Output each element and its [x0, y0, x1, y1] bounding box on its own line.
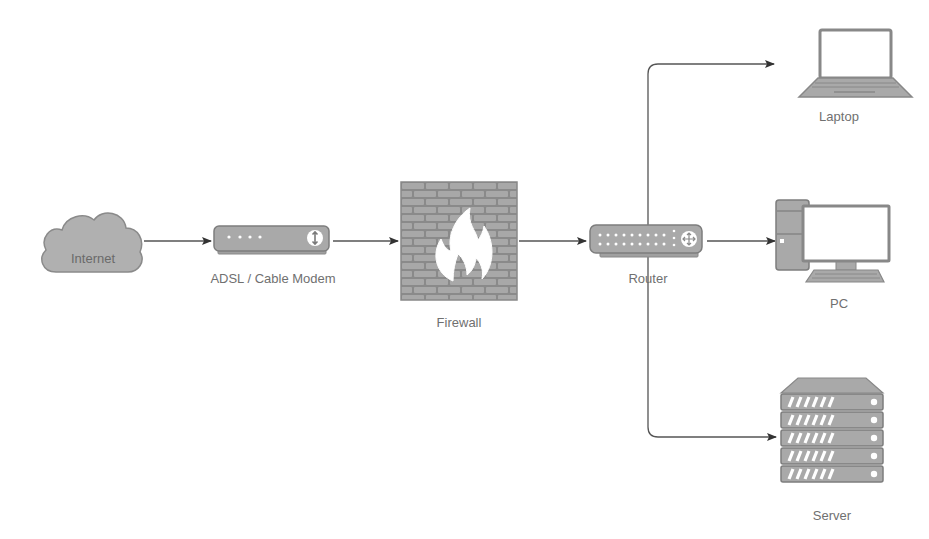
- label-pc: PC: [830, 296, 848, 311]
- label-server: Server: [813, 508, 851, 523]
- server-icon[interactable]: [781, 378, 883, 482]
- laptop-icon[interactable]: [799, 30, 912, 97]
- network-diagram-canvas: [0, 0, 929, 539]
- modem-icon[interactable]: [214, 226, 329, 254]
- label-firewall: Firewall: [437, 315, 482, 330]
- firewall-icon[interactable]: [401, 182, 517, 300]
- label-modem: ADSL / Cable Modem: [210, 271, 335, 286]
- edge-router-laptop: [648, 64, 774, 226]
- desktop-pc-icon[interactable]: [776, 200, 889, 282]
- router-icon[interactable]: [590, 225, 702, 257]
- label-router: Router: [628, 271, 667, 286]
- label-laptop: Laptop: [819, 109, 859, 124]
- label-internet: Internet: [71, 251, 115, 266]
